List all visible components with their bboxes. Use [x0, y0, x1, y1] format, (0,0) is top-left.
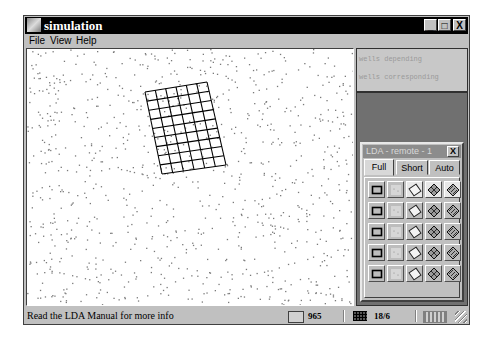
- menu-file[interactable]: File: [29, 34, 45, 48]
- lda-tool-square-button[interactable]: [368, 202, 385, 219]
- simulation-canvas[interactable]: [26, 48, 354, 306]
- hatched-diamond-icon: [445, 266, 461, 282]
- tab-auto[interactable]: Auto: [429, 160, 460, 175]
- menu-bar: File View Help: [25, 34, 468, 48]
- minimize-button[interactable]: _: [424, 19, 437, 31]
- grid-icon: [353, 311, 367, 321]
- lda-tool-hatched-diamond-button[interactable]: [444, 223, 461, 240]
- particle-count: 965: [308, 308, 322, 324]
- side-panel: wells depending wells corresponding LDA …: [356, 48, 468, 306]
- hatched-diamond-icon: [445, 245, 461, 261]
- lda-tool-grid-diamond-button[interactable]: [425, 244, 442, 261]
- hatched-diamond-icon: [445, 224, 461, 240]
- dotted-fill-icon: [388, 182, 404, 198]
- grid-ratio: 18/6: [374, 308, 390, 324]
- dotted-fill-icon: [388, 203, 404, 219]
- lda-tool-grid-diamond-button[interactable]: [425, 223, 442, 240]
- diamond-icon: [407, 224, 423, 240]
- hatched-diamond-icon: [445, 182, 461, 198]
- status-divider: [415, 310, 417, 322]
- particle-count-icon: [288, 311, 304, 323]
- status-divider: [343, 310, 345, 322]
- hatched-diamond-icon: [445, 203, 461, 219]
- diamond-icon: [407, 266, 423, 282]
- lda-tool-dotted-fill-button[interactable]: [387, 265, 404, 282]
- lda-tool-hatched-diamond-button[interactable]: [444, 265, 461, 282]
- info-line: wells depending: [359, 55, 422, 63]
- grid-diamond-icon: [426, 203, 442, 219]
- progress-indicator: [423, 311, 447, 323]
- dotted-fill-icon: [388, 266, 404, 282]
- lda-tool-diamond-button[interactable]: [406, 181, 423, 198]
- tab-short[interactable]: Short: [396, 160, 428, 175]
- lda-tool-grid-diamond-button[interactable]: [425, 181, 442, 198]
- lda-title: LDA - remote - 1: [366, 146, 432, 156]
- lda-panel: LDA - remote - 1 X Full Short Auto: [360, 142, 464, 302]
- lda-tool-diamond-button[interactable]: [406, 244, 423, 261]
- status-bar: Read the LDA Manual for more info 965 18…: [25, 308, 468, 324]
- menu-view[interactable]: View: [50, 34, 72, 48]
- grid-diamond-icon: [426, 182, 442, 198]
- diamond-icon: [407, 203, 423, 219]
- lda-tool-square-button[interactable]: [368, 265, 385, 282]
- grid-diamond-icon: [426, 266, 442, 282]
- diamond-icon: [407, 245, 423, 261]
- app-icon[interactable]: [27, 18, 41, 32]
- side-info: wells depending wells corresponding: [357, 49, 467, 93]
- square-icon: [369, 266, 385, 282]
- lda-close-button[interactable]: X: [447, 146, 459, 157]
- title-bar[interactable]: simulation _ □ X: [25, 17, 468, 34]
- window-title: simulation: [44, 18, 103, 33]
- lda-tool-grid-diamond-button[interactable]: [425, 202, 442, 219]
- lda-tool-hatched-diamond-button[interactable]: [444, 244, 461, 261]
- dotted-fill-icon: [388, 245, 404, 261]
- lda-tool-square-button[interactable]: [368, 244, 385, 261]
- square-icon: [369, 203, 385, 219]
- lda-tool-hatched-diamond-button[interactable]: [444, 202, 461, 219]
- square-icon: [369, 182, 385, 198]
- lda-tool-dotted-fill-button[interactable]: [387, 223, 404, 240]
- lda-tool-grid: [364, 177, 460, 298]
- resize-grip[interactable]: [455, 311, 467, 323]
- lda-tool-diamond-button[interactable]: [406, 265, 423, 282]
- maximize-button[interactable]: □: [438, 19, 451, 31]
- status-message: Read the LDA Manual for more info: [27, 308, 174, 324]
- grid-diamond-icon: [426, 224, 442, 240]
- lda-tool-square-button[interactable]: [368, 181, 385, 198]
- lda-tool-dotted-fill-button[interactable]: [387, 181, 404, 198]
- lda-tool-grid-diamond-button[interactable]: [425, 265, 442, 282]
- menu-help[interactable]: Help: [76, 34, 97, 48]
- lda-tool-dotted-fill-button[interactable]: [387, 202, 404, 219]
- diamond-icon: [407, 182, 423, 198]
- grid-overlay[interactable]: [27, 49, 354, 306]
- grid-diamond-icon: [426, 245, 442, 261]
- simulation-window: simulation _ □ X File View Help wells de…: [23, 15, 470, 325]
- lda-tool-hatched-diamond-button[interactable]: [444, 181, 461, 198]
- dotted-fill-icon: [388, 224, 404, 240]
- lda-tabs: Full Short Auto: [364, 160, 460, 176]
- lda-title-bar[interactable]: LDA - remote - 1 X: [363, 145, 461, 158]
- lda-tool-diamond-button[interactable]: [406, 202, 423, 219]
- square-icon: [369, 245, 385, 261]
- tab-full[interactable]: Full: [364, 159, 394, 176]
- lda-tool-square-button[interactable]: [368, 223, 385, 240]
- square-icon: [369, 224, 385, 240]
- lda-tool-dotted-fill-button[interactable]: [387, 244, 404, 261]
- lda-tool-diamond-button[interactable]: [406, 223, 423, 240]
- info-line: wells corresponding: [359, 73, 439, 81]
- close-button[interactable]: X: [453, 19, 466, 31]
